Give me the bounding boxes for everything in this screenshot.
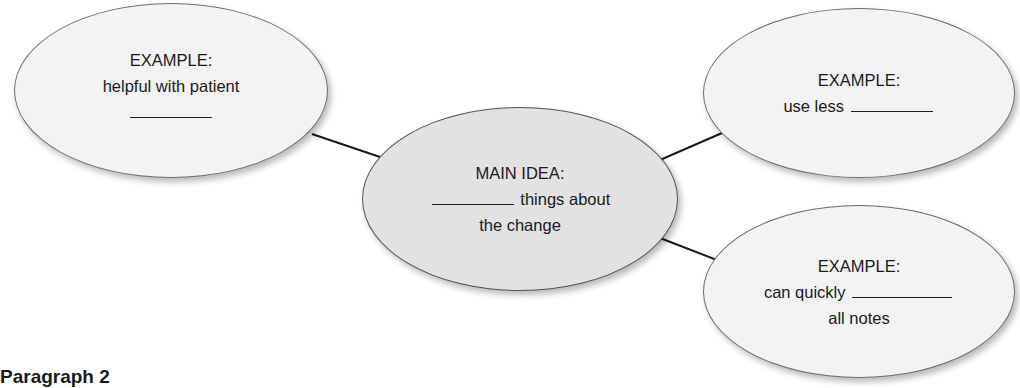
fill-in-blank[interactable] [432,203,514,205]
main-idea-label: MAIN IDEA: [476,160,565,186]
fill-in-blank[interactable] [852,296,952,298]
main-idea-text-2: the change [479,212,561,238]
section-heading-partial: Paragraph 2 [0,366,110,388]
example-text: helpful with patient [103,73,240,99]
connector-left [312,134,380,157]
example-bubble-bottom-right: EXAMPLE: can quickly all notes [703,205,1015,378]
connector-bottom-right [660,238,722,262]
example-label: EXAMPLE: [818,67,901,93]
example-label: EXAMPLE: [130,47,213,73]
example-text: use less [783,97,844,115]
example-bubble-left: EXAMPLE: helpful with patient [14,3,328,178]
example-bubble-top-right: EXAMPLE: use less [703,8,1015,178]
example-label: EXAMPLE: [818,253,901,279]
connector-top-right [660,133,722,160]
example-text: can quickly [764,283,846,301]
fill-in-blank[interactable] [130,116,212,118]
main-idea-text: things about [520,190,610,208]
fill-in-blank[interactable] [851,110,933,112]
main-idea-bubble: MAIN IDEA: things about the change [362,107,678,291]
example-text-2: all notes [828,305,889,331]
